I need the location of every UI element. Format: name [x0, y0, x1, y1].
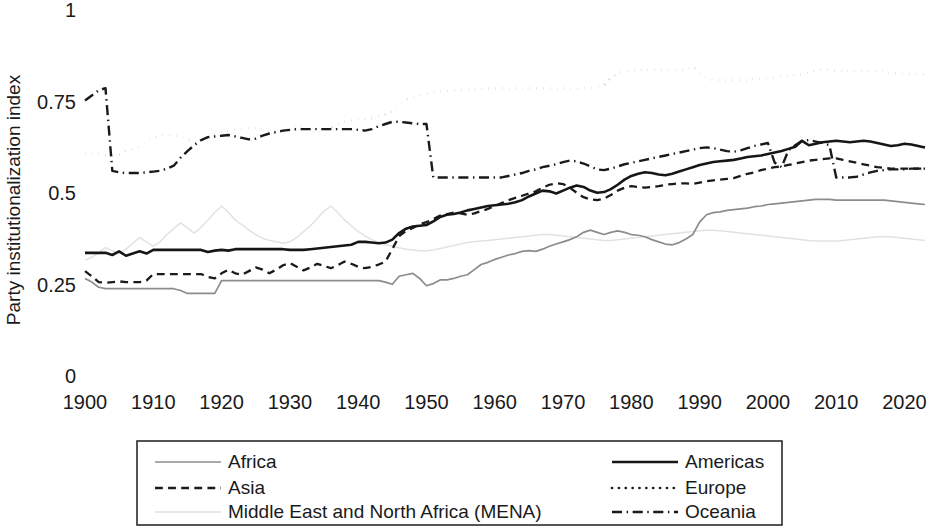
x-tick-label: 1950	[404, 391, 449, 413]
legend-label-africa: Africa	[228, 451, 277, 472]
x-tick-label: 1970	[541, 391, 586, 413]
x-tick-label: 1960	[473, 391, 518, 413]
chart-background	[0, 0, 934, 529]
x-tick-label: 1910	[131, 391, 176, 413]
y-tick-label: 0.25	[37, 274, 76, 296]
x-tick-label: 2020	[882, 391, 927, 413]
y-tick-label: 0.5	[48, 182, 76, 204]
legend-label-asia: Asia	[228, 477, 265, 498]
x-tick-label: 1920	[199, 391, 244, 413]
x-tick-label: 2010	[814, 391, 859, 413]
y-axis-title: Party institutionalization index	[3, 74, 24, 325]
legend-label-middle-east-and-north-africa-mena: Middle East and North Africa (MENA)	[228, 501, 542, 522]
legend-label-americas: Americas	[685, 451, 764, 472]
y-tick-label: 1	[65, 0, 76, 21]
x-tick-label: 1900	[63, 391, 108, 413]
x-tick-label: 1980	[609, 391, 654, 413]
x-tick-label: 2000	[746, 391, 791, 413]
party-institutionalization-chart: Party institutionalization index 00.250.…	[0, 0, 934, 529]
legend-label-oceania: Oceania	[685, 501, 756, 522]
y-tick-label: 0.75	[37, 91, 76, 113]
y-tick-label: 0	[65, 365, 76, 387]
x-tick-label: 1990	[677, 391, 722, 413]
legend-label-europe: Europe	[685, 477, 746, 498]
x-tick-label: 1930	[268, 391, 313, 413]
x-tick-label: 1940	[336, 391, 381, 413]
